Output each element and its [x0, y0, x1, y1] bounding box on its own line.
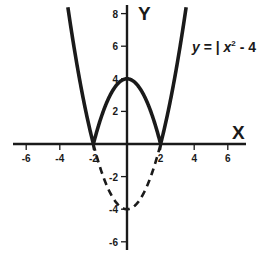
y-tick-label: -6 — [109, 237, 118, 248]
x-tick-label: -6 — [22, 153, 31, 164]
equation-equals: = | — [200, 39, 224, 55]
x-tick-label: 2 — [158, 153, 164, 164]
y-axis-label: Y — [138, 3, 151, 24]
x-tick-label: 4 — [191, 153, 197, 164]
function-graph: -6-4-22468642-2-4-6 X Y y = | x2 - 4 | — [0, 0, 260, 258]
x-tick-label: 6 — [225, 153, 231, 164]
y-tick-label: 2 — [112, 106, 118, 117]
y-tick-label: 6 — [112, 41, 118, 52]
equation-label: y = | x2 - 4 | — [191, 39, 260, 55]
x-tick-label: -4 — [55, 153, 64, 164]
x-axis-label: X — [232, 122, 245, 143]
y-tick-label: -2 — [109, 172, 118, 183]
equation-rest: - 4 | — [236, 39, 260, 55]
y-tick-label: -4 — [109, 204, 118, 215]
y-tick-label: 8 — [112, 9, 118, 20]
